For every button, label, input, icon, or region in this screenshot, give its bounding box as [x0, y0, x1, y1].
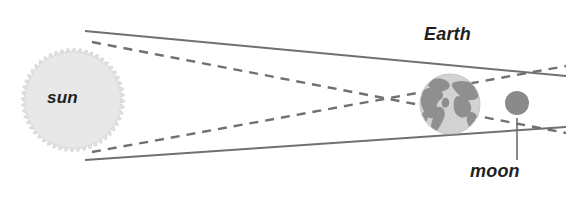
moon-graphic — [505, 91, 529, 115]
eclipse-diagram: sun Earth moon — [0, 0, 566, 201]
dashed-ray-upper — [92, 42, 566, 133]
earth-graphic — [420, 74, 480, 134]
dashed-ray-lower — [92, 66, 566, 152]
solid-ray-lower — [85, 127, 566, 160]
moon-disc — [505, 91, 529, 115]
light-rays-group — [85, 31, 566, 160]
earth-label: Earth — [424, 24, 471, 45]
sun-label: sun — [47, 88, 78, 108]
moon-label: moon — [470, 161, 520, 182]
